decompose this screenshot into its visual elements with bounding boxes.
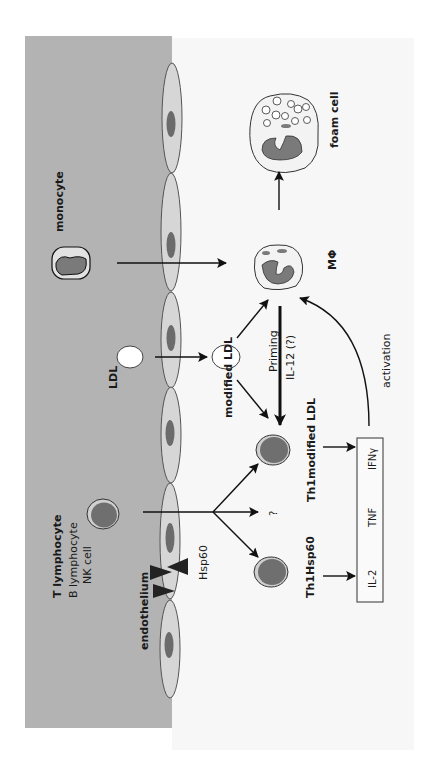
- ldl-particle: [117, 346, 143, 368]
- t-lymphocyte-label: T lymphocyte: [51, 515, 64, 598]
- cytokine-il2: IL-2: [367, 570, 378, 588]
- monocyte-cell: [52, 247, 90, 279]
- foam-cell: [250, 94, 318, 173]
- cytokine-tnf: TNF: [367, 507, 378, 528]
- lymphocyte-cell: [87, 499, 119, 529]
- il12-label: IL-12 (?): [284, 335, 297, 380]
- unknown-label: ?: [268, 511, 279, 516]
- nucleus: [167, 111, 176, 137]
- cytokine-ifng: IFNγ: [367, 448, 378, 470]
- diagram-canvas: monocyte LDL T lymphocyte B lymphocyte N…: [0, 0, 427, 768]
- modified-ldl-label: modified LDL: [222, 337, 235, 418]
- activation-label: activation: [380, 333, 393, 388]
- macrophage-cell: [254, 245, 302, 290]
- nucleus: [166, 523, 175, 553]
- th1-modified-ldl-label: Th1modified LDL: [305, 398, 318, 502]
- nucleus: [167, 232, 176, 258]
- ldl-label: LDL: [107, 366, 120, 389]
- nk-cell-label: NK cell: [81, 546, 94, 584]
- hsp60-label: Hsp60: [197, 545, 210, 580]
- b-lymphocyte-label: B lymphocyte: [67, 522, 80, 598]
- nucleus: [165, 632, 174, 658]
- priming-label: Priming: [267, 330, 280, 372]
- foam-cell-label: foam cell: [328, 91, 341, 148]
- endothelium-label: endothelium: [138, 572, 151, 650]
- th1-hsp60-label: Th1Hsp60: [304, 536, 317, 598]
- nucleus: [167, 325, 176, 351]
- macrophage-label: MΦ: [326, 250, 339, 270]
- th1-modified-ldl-cell: [256, 435, 290, 465]
- th1-hsp60-cell: [254, 557, 288, 587]
- nucleus: [166, 420, 175, 446]
- monocyte-label: monocyte: [53, 171, 66, 232]
